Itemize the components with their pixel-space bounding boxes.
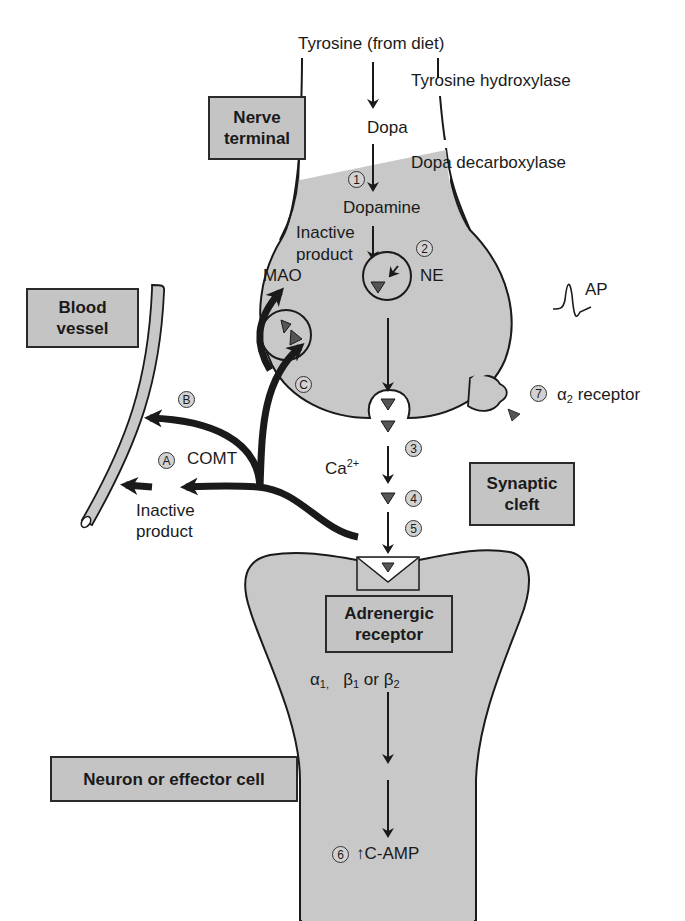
step-b-marker: B (178, 391, 195, 408)
nerve-terminal-text: Nerve terminal (217, 107, 297, 149)
ap-label: AP (585, 280, 608, 300)
effector-cell-box: Neuron or effector cell (50, 756, 298, 802)
blood-vessel-box: Blood vessel (26, 288, 139, 348)
dopamine-label: Dopamine (343, 198, 421, 218)
comt-inactive-product-label: Inactive product (136, 500, 214, 542)
beta2-symbol: β (384, 670, 394, 689)
beta1-symbol: β (343, 670, 353, 689)
adrenergic-synapse-diagram: Tyrosine (from diet) Tyrosine hydroxylas… (0, 0, 685, 921)
step-1-marker: 1 (348, 171, 365, 188)
comt-inactive-product-text: Inactive product (136, 500, 214, 542)
or-text: or (359, 670, 384, 689)
receptor-text: receptor (573, 385, 640, 404)
step-6-marker: 6 (332, 846, 349, 863)
beta2-subscript: 2 (393, 678, 399, 690)
camp-label: ↑C-AMP (356, 844, 419, 864)
mao-label: MAO (263, 266, 302, 286)
calcium-label: Ca2+ (325, 453, 359, 479)
alpha2-receptor-label: α2 receptor (557, 385, 640, 409)
mao-inactive-product-label: Inactive product (296, 222, 374, 266)
mao-vesicle (261, 310, 311, 360)
synaptic-cleft-text: Synaptic cleft (482, 473, 562, 515)
receptor-subtypes-label: α1, β1 or β2 (310, 670, 400, 694)
adrenergic-receptor-text: Adrenergic receptor (334, 603, 444, 645)
alpha-symbol: α (557, 385, 567, 404)
adrenergic-receptor-box: Adrenergic receptor (325, 595, 453, 653)
comt-label: COMT (187, 449, 237, 469)
blood-vessel-text: Blood vessel (43, 297, 123, 339)
step-a-marker: A (158, 452, 175, 469)
ne-label: NE (420, 266, 444, 286)
mao-inactive-product-text: Inactive product (296, 222, 374, 266)
step-3-marker: 3 (405, 440, 422, 457)
synaptic-cleft-box: Synaptic cleft (469, 462, 575, 526)
dopa-decarboxylase-label: Dopa decarboxylase (411, 153, 566, 173)
step-7-marker: 7 (530, 385, 547, 402)
effector-cell-text: Neuron or effector cell (83, 769, 264, 790)
alpha2-receptor (468, 375, 507, 411)
step-c-marker: C (295, 376, 312, 393)
calcium-symbol: Ca (325, 459, 347, 478)
comt-to-vessel-arrow (126, 485, 152, 487)
tyrosine-hydroxylase-label: Tyrosine hydroxylase (411, 71, 571, 91)
tyrosine-label: Tyrosine (from diet) (298, 34, 444, 54)
step-4-marker: 4 (405, 490, 422, 507)
step-5-marker: 5 (405, 520, 422, 537)
nerve-terminal-box: Nerve terminal (208, 96, 306, 160)
alpha1-symbol: α (310, 670, 320, 689)
dopa-label: Dopa (367, 118, 408, 138)
alpha1-subscript: 1, (320, 678, 329, 690)
step-2-marker: 2 (416, 240, 433, 257)
calcium-charge: 2+ (347, 457, 360, 469)
